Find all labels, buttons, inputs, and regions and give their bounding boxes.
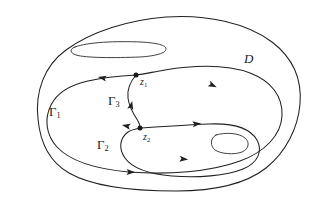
gamma3-crosscut-path xyxy=(128,75,140,128)
label-gamma2-base: Γ xyxy=(97,137,105,152)
outer-domain-boundary-path xyxy=(37,16,300,191)
label-z2-sub: 2 xyxy=(147,136,150,143)
gamma1-contour-path xyxy=(47,66,282,173)
node-dot-z2 xyxy=(138,126,143,131)
label-gamma3: Γ3 xyxy=(108,94,120,110)
label-z1: z1 xyxy=(140,77,147,88)
slit-hole-path xyxy=(71,42,166,58)
arrow-head-gamma2-bottom xyxy=(179,156,188,163)
blob-hole-path xyxy=(211,133,248,153)
contour-diagram-figure: Γ1 Γ2 Γ3 z1 z2 D xyxy=(0,0,318,198)
label-z2: z2 xyxy=(143,132,150,143)
label-domain-d: D xyxy=(244,52,253,65)
label-gamma1-sub: 1 xyxy=(57,111,61,120)
arrow-head-gamma1-upper-right xyxy=(208,81,218,90)
label-gamma3-base: Γ xyxy=(108,93,116,108)
label-gamma3-sub: 3 xyxy=(116,100,120,109)
contour-canvas xyxy=(0,0,318,198)
label-gamma2-sub: 2 xyxy=(105,144,109,153)
label-gamma1-base: Γ xyxy=(49,104,57,119)
arrow-head-gamma2-top xyxy=(192,120,201,127)
node-dot-z1 xyxy=(134,73,139,78)
label-gamma1: Γ1 xyxy=(49,105,61,121)
label-gamma2: Γ2 xyxy=(97,138,109,154)
arrow-head-gamma1-near-z2 xyxy=(121,122,131,130)
gamma2-contour-path xyxy=(121,124,260,177)
label-z1-sub: 1 xyxy=(144,81,147,88)
